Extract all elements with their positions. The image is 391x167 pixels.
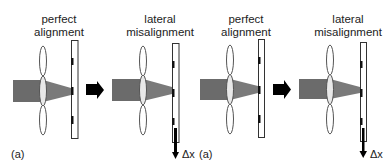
panel-title-line1: perfect [41,13,77,25]
alignment-diagram: perfect alignment lateral misalignment [0,0,391,167]
subfigure-label: (a) [11,148,24,160]
panel-title-line1: perfect [228,13,264,25]
panel-title-line2: misalignment [314,26,383,38]
delta-x-label: Δx [182,148,195,160]
panel-perfect-alignment-2: perfect alignment [200,13,272,138]
right-arrow-icon [273,80,291,99]
lens-icon [327,45,334,134]
panel-title-line2: alignment [221,26,272,38]
right-arrow-icon [86,81,104,99]
panel-title-line1: lateral [144,13,175,25]
laser-beam [200,79,230,100]
delta-x-label: Δx [370,148,383,160]
laser-beam [13,80,43,102]
focus-cone [43,80,71,102]
subfigure-label: (a) [199,148,212,160]
panel-title-line2: alignment [34,26,85,38]
panel-lateral-misalignment-1: lateral misalignment Δx [112,13,195,160]
panel-perfect-alignment-1: perfect alignment [13,13,85,139]
panel-title-line1: lateral [332,13,363,25]
lens-icon [40,46,47,135]
lens-icon [227,45,234,134]
panel-lateral-misalignment-2: lateral misalignment Δx [299,13,383,160]
lens-icon [140,46,147,135]
focus-cone [230,79,258,100]
laser-beam [112,79,143,101]
focus-cone [143,79,172,101]
focus-cone [330,79,360,99]
panel-title-line2: misalignment [126,26,195,38]
laser-beam [299,79,330,99]
